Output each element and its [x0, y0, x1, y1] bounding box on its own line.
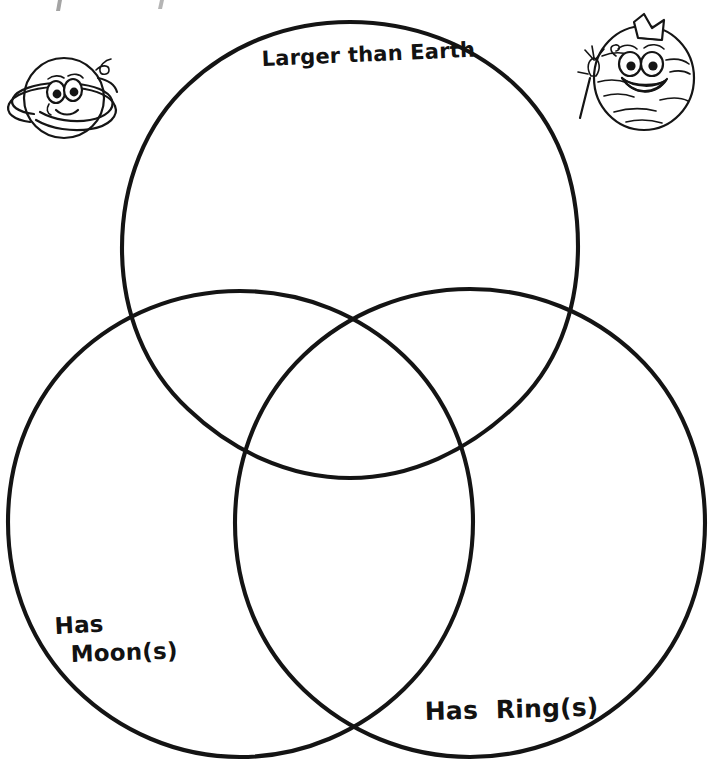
venn-circle-has-rings[interactable]: Has Ring(s): [235, 289, 705, 757]
king-planet-cartoon-icon: [578, 14, 694, 130]
venn-circle-has-moons[interactable]: Has Moon(s): [8, 291, 473, 757]
venn-label-has-moons-line2: Moon(s): [70, 637, 178, 667]
venn-label-larger-than-earth: Larger than Earth: [261, 38, 475, 71]
worksheet-canvas: Larger than Earth Has Moon(s) Has Ring(s…: [0, 0, 718, 769]
venn-circle-larger-than-earth[interactable]: Larger than Earth: [122, 22, 578, 478]
venn-diagram: Larger than Earth Has Moon(s) Has Ring(s…: [0, 0, 718, 769]
venn-label-has-moons-line1: Has: [54, 610, 104, 639]
venn-label-has-rings: Has Ring(s): [424, 692, 598, 726]
scan-artifacts: [56, 0, 164, 11]
saturn-cartoon-icon: [8, 58, 117, 138]
